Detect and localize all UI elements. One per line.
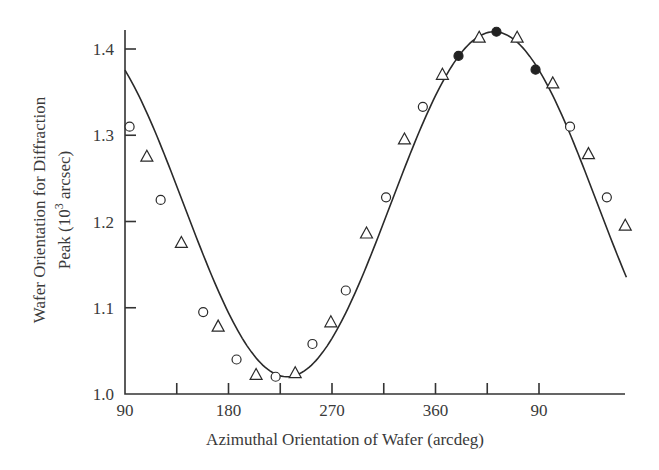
y-tick-label: 1.0 (93, 385, 114, 404)
x-tick-label: 90 (117, 401, 134, 420)
triangle-marker (141, 150, 153, 161)
triangle-marker (473, 31, 485, 42)
data-markers (125, 27, 631, 381)
y-axis-title-line1: Wafer Orientation for Diffraction (30, 96, 49, 323)
ticks: 90180270360901.01.11.21.31.4 (93, 40, 548, 420)
x-tick-label: 180 (216, 401, 242, 420)
triangle-marker (582, 148, 594, 159)
circle-marker (418, 102, 427, 111)
circle-marker (602, 193, 611, 202)
triangle-marker (289, 367, 301, 378)
x-tick-label: 270 (319, 401, 345, 420)
circle-marker (382, 193, 391, 202)
x-tick-label: 360 (423, 401, 449, 420)
triangle-marker (250, 368, 262, 379)
y-tick-label: 1.2 (93, 213, 114, 232)
circle-marker (156, 195, 165, 204)
y-axis-title-line2: Peak (103 arcsec) (52, 151, 74, 269)
triangle-marker (175, 236, 187, 247)
x-tick-label: 90 (531, 401, 548, 420)
circle-marker (232, 355, 241, 364)
filled-circle-marker (454, 51, 463, 60)
circle-marker (199, 308, 208, 317)
circle-marker (566, 122, 575, 131)
triangle-marker (212, 320, 224, 331)
circle-marker (125, 122, 134, 131)
circle-marker (308, 339, 317, 348)
circle-marker (341, 286, 350, 295)
y-tick-label: 1.1 (93, 299, 114, 318)
triangle-marker (361, 227, 373, 238)
filled-circle-marker (492, 27, 501, 36)
x-axis-title: Azimuthal Orientation of Wafer (arcdeg) (206, 430, 484, 449)
triangle-marker (511, 31, 523, 42)
triangle-marker (619, 219, 631, 230)
triangle-marker (325, 316, 337, 327)
triangle-marker (398, 133, 410, 144)
chart-canvas: Wafer Orientation for Diffraction Peak (… (0, 0, 659, 470)
y-axis-title: Wafer Orientation for Diffraction Peak (… (30, 96, 74, 323)
y-tick-label: 1.4 (93, 40, 115, 59)
circle-marker (271, 372, 280, 381)
triangle-marker (547, 77, 559, 88)
filled-circle-marker (531, 65, 540, 74)
y-tick-label: 1.3 (93, 126, 114, 145)
